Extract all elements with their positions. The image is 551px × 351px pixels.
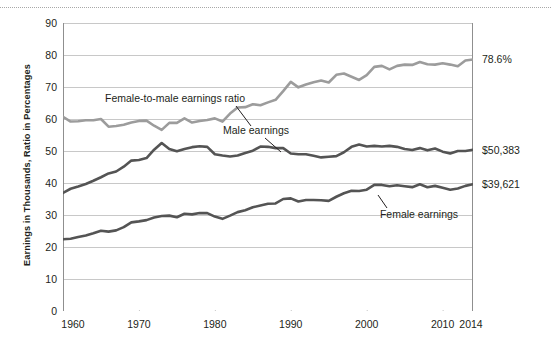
y-axis-tick-label: 80 xyxy=(45,49,57,61)
y-axis-tick-label: 60 xyxy=(45,113,57,125)
y-axis-tick-label: 30 xyxy=(45,209,57,221)
y-axis-tick-label: 10 xyxy=(45,273,57,285)
plot-svg xyxy=(63,23,473,311)
y-axis-title: Earnings in Thousands, Ratio in Percenta… xyxy=(22,30,32,300)
y-axis-tick-label: 40 xyxy=(45,177,57,189)
x-axis-tick-label: 1990 xyxy=(279,318,302,330)
ratio-annotation: Female-to-male earnings ratio xyxy=(105,92,245,104)
series-line xyxy=(63,143,473,193)
series-end-label: 78.6% xyxy=(482,53,512,65)
y-axis-tick-label: 50 xyxy=(45,145,57,157)
top-dotted-rule xyxy=(0,7,551,9)
plot-area: 0102030405060708090196019701980199020002… xyxy=(63,23,473,311)
y-axis-tick-label: 90 xyxy=(45,17,57,29)
x-axis-tick-label: 1980 xyxy=(203,318,226,330)
earnings-chart-figure: Earnings in Thousands, Ratio in Percenta… xyxy=(0,0,551,351)
y-axis-tick-label: 20 xyxy=(45,241,57,253)
male-earnings-annotation: Male earnings xyxy=(223,124,289,136)
series-end-label: $39,621 xyxy=(482,178,520,190)
x-axis-tick-label: 2014 xyxy=(459,318,482,330)
x-axis-tick-label: 1960 xyxy=(61,318,84,330)
x-axis-tick-label: 1970 xyxy=(127,318,150,330)
y-axis-tick-label: 70 xyxy=(45,81,57,93)
x-axis-tick-label: 2010 xyxy=(431,318,454,330)
series-end-label: $50,383 xyxy=(482,144,520,156)
y-axis-tick-label: 0 xyxy=(51,305,57,317)
x-axis-tick-label: 2000 xyxy=(355,318,378,330)
female-earnings-annotation: Female earnings xyxy=(380,208,458,220)
